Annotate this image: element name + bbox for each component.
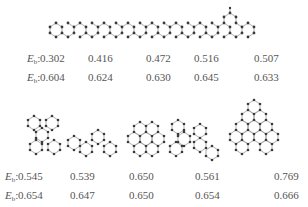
eb-symbol: E [5, 170, 12, 182]
bottom-molecule-4 [168, 116, 220, 162]
top-row1-value: 0.472 [146, 52, 171, 64]
bottom-row2-value: 0.666 [274, 189, 299, 201]
top-row2-value: 0.604 [40, 71, 65, 83]
eb-label-bottom-1: Eb: [5, 170, 18, 186]
bottom-molecule-3 [126, 118, 166, 162]
molecular-binding-energy-figure: Eb: 0.302 0.416 0.472 0.516 0.507 Eb: 0.… [0, 0, 308, 207]
top-row2-value: 0.630 [146, 71, 171, 83]
bottom-row2-value: 0.650 [129, 189, 154, 201]
bottom-row1-value: 0.561 [195, 170, 220, 182]
top-row1-value: 0.302 [40, 52, 65, 64]
molecule-chain-icon [40, 5, 270, 47]
molecule-branched-chain-icon [168, 116, 220, 162]
bottom-row1-value: 0.539 [70, 170, 95, 182]
top-row2-value: 0.633 [254, 71, 279, 83]
eb-symbol: E [5, 189, 12, 201]
eb-label-top-2: Eb: [27, 71, 40, 87]
molecule-zigzag-chain-icon [64, 122, 124, 164]
bottom-molecule-5 [226, 96, 288, 162]
top-row2-value: 0.624 [88, 71, 113, 83]
bottom-row1-value: 0.545 [18, 170, 43, 182]
bottom-molecule-2 [64, 122, 124, 164]
top-row1-value: 0.416 [88, 52, 113, 64]
top-row2-value: 0.645 [194, 71, 219, 83]
eb-label-top-1: Eb: [27, 52, 40, 68]
bottom-row1-value: 0.650 [129, 170, 154, 182]
molecule-compact-flake-icon [126, 118, 166, 162]
top-row-molecule-chain [40, 5, 270, 47]
top-row1-value: 0.516 [194, 52, 219, 64]
bottom-row2-value: 0.647 [70, 189, 95, 201]
eb-symbol: E [27, 52, 34, 64]
top-row1-value: 0.507 [254, 52, 279, 64]
eb-label-bottom-2: Eb: [5, 189, 18, 205]
bottom-molecule-1 [22, 112, 67, 162]
eb-symbol: E [27, 71, 34, 83]
bottom-row1-value: 0.769 [274, 170, 299, 182]
molecule-triangular-flake-icon [226, 96, 288, 162]
bottom-row2-value: 0.654 [18, 189, 43, 201]
bottom-row2-value: 0.654 [195, 189, 220, 201]
molecule-branched-cluster-icon [22, 112, 67, 162]
